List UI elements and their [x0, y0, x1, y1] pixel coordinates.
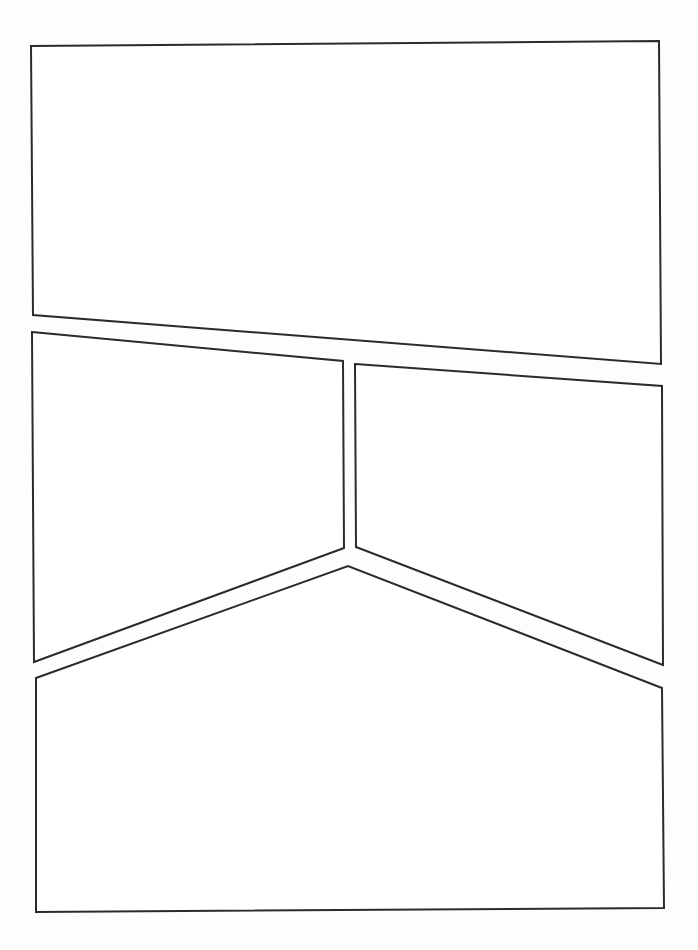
comic-page-template	[0, 0, 698, 950]
panel-1-top-wide[interactable]	[31, 41, 661, 364]
page-canvas	[0, 0, 698, 950]
